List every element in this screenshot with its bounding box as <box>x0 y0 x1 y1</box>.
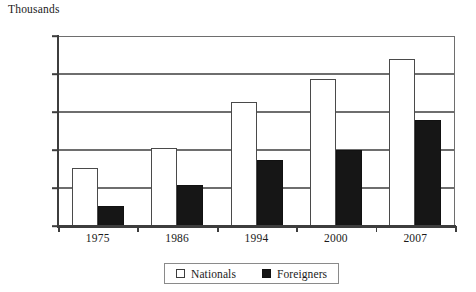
y-axis-line <box>57 35 59 227</box>
bar-foreigners <box>98 206 124 226</box>
x-axis-tick-mark <box>58 226 60 232</box>
y-axis-tick-mark <box>52 73 58 75</box>
legend-entry: Foreigners <box>262 268 327 280</box>
plot-area <box>58 36 455 226</box>
y-axis-tick-mark <box>52 149 58 151</box>
legend: NationalsForeigners <box>164 263 339 284</box>
plot-border-right <box>454 36 455 226</box>
bar-foreigners <box>336 150 362 226</box>
bar-foreigners <box>415 120 441 226</box>
bar-nationals <box>389 59 415 226</box>
x-axis-tick-mark <box>296 226 298 232</box>
bar-foreigners <box>177 185 203 226</box>
x-axis-tick-mark <box>137 226 139 232</box>
x-axis-tick-mark <box>217 226 219 232</box>
y-axis-tick-mark <box>52 111 58 113</box>
x-axis-line <box>57 225 456 227</box>
x-axis-label: 1994 <box>245 232 269 244</box>
white-square-icon <box>176 269 185 278</box>
legend-label: Nationals <box>191 268 236 280</box>
legend-entry: Nationals <box>176 268 236 280</box>
bar-nationals <box>72 168 98 226</box>
x-axis-label: 2000 <box>324 232 348 244</box>
bar-nationals <box>231 102 257 226</box>
y-axis-unit-caption: Thousands <box>8 3 60 15</box>
bar-foreigners <box>257 160 283 226</box>
x-axis-label: 1986 <box>165 232 189 244</box>
x-axis-tick-mark <box>376 226 378 232</box>
black-square-icon <box>262 269 271 278</box>
bar-chart: Thousands 05,00010,00015,00020,00025,000… <box>0 0 476 292</box>
y-axis-tick-mark <box>52 187 58 189</box>
plot-border-top <box>58 36 455 37</box>
x-axis-label: 2007 <box>403 232 427 244</box>
y-axis-tick-mark <box>52 35 58 37</box>
x-axis-tick-mark <box>455 226 457 232</box>
bar-nationals <box>151 148 177 226</box>
bar-nationals <box>310 79 336 226</box>
x-axis-label: 1975 <box>86 232 110 244</box>
legend-label: Foreigners <box>277 268 327 280</box>
